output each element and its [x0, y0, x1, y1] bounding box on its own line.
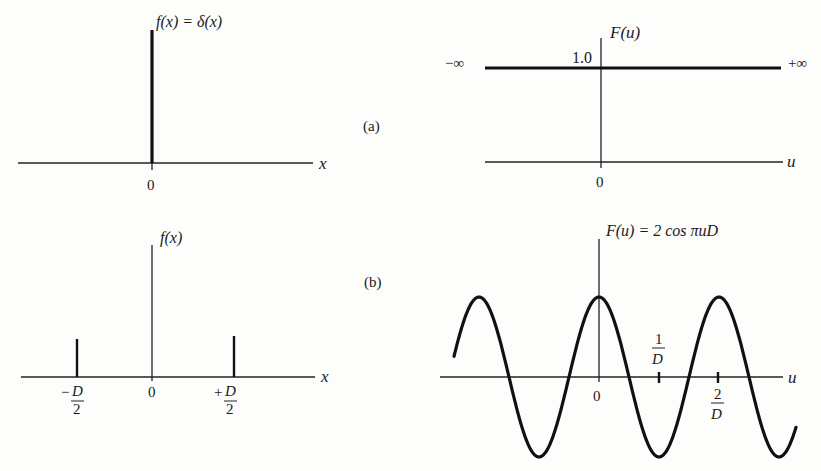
title-cosine: F(u) = 2 cos πuD — [605, 222, 719, 240]
panel-b-label: (b) — [364, 274, 382, 291]
origin-label: 0 — [148, 384, 156, 400]
fourier-pair-diagram: f(x) = δ(x) x 0 (a) F(u) 1.0 −∞ +∞ u 0 f… — [0, 0, 821, 471]
svg-text:+: + — [214, 384, 222, 400]
x-axis-label: x — [320, 367, 329, 386]
origin-label: 0 — [596, 174, 604, 190]
u-axis-label: u — [788, 368, 797, 387]
origin-label: 0 — [147, 177, 155, 193]
plus-infinity-label: +∞ — [788, 55, 807, 71]
panel-a-left: f(x) = δ(x) x 0 — [18, 13, 327, 193]
svg-text:D: D — [71, 383, 83, 399]
tick-label-2-over-d: 2 D — [710, 386, 724, 422]
svg-text:1: 1 — [655, 331, 663, 347]
svg-text:2: 2 — [226, 401, 234, 417]
svg-text:2: 2 — [73, 401, 81, 417]
u-axis-label: u — [787, 152, 796, 171]
tick-label-1-over-d: 1 D — [651, 331, 665, 367]
svg-text:2: 2 — [714, 386, 722, 402]
panel-a-label: (a) — [363, 118, 380, 135]
tick-label-pos-half-d: + D 2 — [214, 383, 237, 417]
tick-label-neg-half-d: − D 2 — [61, 383, 84, 417]
x-axis-label: x — [318, 154, 327, 173]
title-delta: f(x) = δ(x) — [156, 13, 222, 31]
origin-label: 0 — [593, 388, 601, 404]
panel-b-left: f(x) x 0 − D 2 + D 2 — [21, 229, 329, 417]
svg-text:D: D — [224, 383, 236, 399]
title-text: F(u) = 2 cos πuD — [605, 222, 719, 240]
value-label-1: 1.0 — [572, 49, 592, 66]
svg-text:D: D — [710, 406, 722, 422]
title-F-u: F(u) — [609, 23, 641, 42]
svg-text:−: − — [61, 384, 69, 400]
title-f-x: f(x) — [160, 229, 182, 247]
minus-infinity-label: −∞ — [445, 55, 464, 71]
panel-a-right: F(u) 1.0 −∞ +∞ u 0 — [445, 23, 807, 190]
panel-b-right: F(u) = 2 cos πuD u 0 1 D 2 D — [440, 222, 797, 457]
svg-text:D: D — [651, 351, 663, 367]
